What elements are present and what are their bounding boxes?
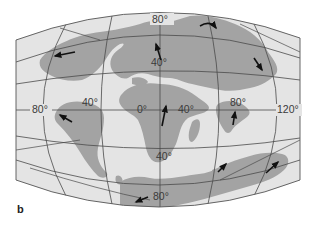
label-lon-0: 0° [137, 103, 147, 115]
label-lon-120-east: 120° [277, 103, 299, 115]
panel-label: b [17, 203, 24, 215]
paleogeographic-world-map: 80° 40° 40° 80° 80° 40° 0° 40° 80° 120° … [0, 0, 316, 226]
label-lat-80-north: 80° [152, 13, 168, 25]
label-lon-40-east: 40° [178, 103, 194, 115]
label-lon-80-west: 80° [32, 103, 48, 115]
label-lon-80-east: 80° [230, 96, 246, 108]
label-lat-40-south: 40° [156, 150, 172, 162]
label-lat-80-south: 80° [153, 190, 169, 202]
label-lon-40-west: 40° [82, 96, 98, 108]
label-lat-40-north: 40° [151, 56, 167, 68]
